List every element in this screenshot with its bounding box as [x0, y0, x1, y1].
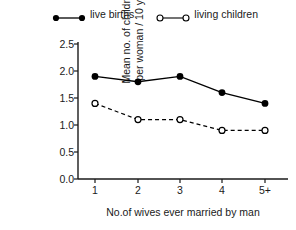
- plot-area: [0, 0, 296, 230]
- data-point-living-children: [177, 117, 183, 123]
- data-point-living-children: [92, 100, 98, 106]
- data-point-living-children: [219, 127, 225, 133]
- data-point-living-children: [262, 127, 268, 133]
- data-point-live-births: [177, 73, 184, 80]
- data-point-living-children: [135, 117, 141, 123]
- data-point-live-births: [92, 73, 99, 80]
- series-line-live-births: [95, 76, 265, 103]
- data-point-live-births: [219, 89, 226, 96]
- data-point-live-births: [135, 78, 142, 85]
- data-point-live-births: [262, 100, 269, 107]
- chart-figure: live births living children Mean no. of …: [0, 0, 296, 230]
